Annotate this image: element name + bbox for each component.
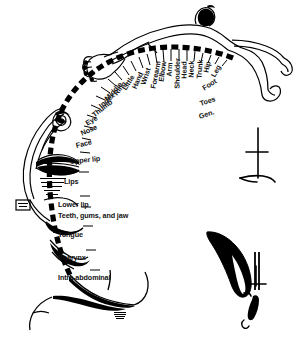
label-intra-abdominal: Intra-abdominal	[58, 274, 110, 281]
homunculus-illustration	[0, 0, 300, 337]
teeth-marker-box	[16, 200, 30, 210]
label-pharynx: Pharynx	[58, 254, 86, 261]
inset-genital	[242, 293, 259, 329]
label-lips: Lips	[64, 178, 78, 185]
inset-hand-scale	[240, 128, 275, 182]
figure-canvas: ToesGen.FootLegHipTrunkNeckHeadShoulderA…	[0, 0, 300, 337]
inset-tongue	[207, 232, 259, 297]
label-teeth-gums-and-jaw: Teeth, gums, and jaw	[58, 212, 128, 219]
artist-signature-mark	[114, 312, 126, 319]
label-lower-lip: Lower lip	[58, 201, 89, 208]
label-shoulder: Shoulder	[173, 59, 181, 89]
label-trunk: Trunk	[195, 60, 204, 80]
label-tongue: Tongue	[58, 231, 83, 238]
